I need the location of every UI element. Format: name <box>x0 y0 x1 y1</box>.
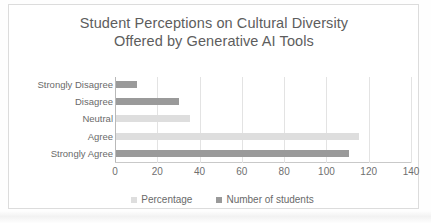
chart-frame: Student Perceptions on Cultural Diversit… <box>8 4 419 209</box>
bar-row <box>115 94 411 111</box>
x-axis-labels: 020406080100120140 <box>115 166 411 180</box>
legend-swatch-icon <box>216 197 222 203</box>
bar-row <box>115 129 411 146</box>
x-axis-tick-40: 40 <box>194 166 205 177</box>
legend-item-number-of-students[interactable]: Number of students <box>216 194 313 205</box>
gridline-140 <box>411 77 412 163</box>
x-axis-tick-120: 120 <box>360 166 377 177</box>
x-axis-tick-100: 100 <box>318 166 335 177</box>
bar-disagree <box>116 98 179 105</box>
legend-label: Number of students <box>226 194 313 205</box>
x-axis-tick-0: 0 <box>112 166 118 177</box>
bar-row <box>115 111 411 128</box>
chart-legend: PercentageNumber of students <box>17 194 428 205</box>
chart-page: Student Perceptions on Cultural Diversit… <box>0 0 431 223</box>
x-axis-tick-80: 80 <box>279 166 290 177</box>
y-axis-labels: Strongly DisagreeDisagreeNeutralAgreeStr… <box>21 77 113 163</box>
bar-agree <box>116 133 359 140</box>
y-axis-label-strongly-disagree: Strongly Disagree <box>21 79 113 90</box>
legend-swatch-icon <box>131 197 137 203</box>
chart-title: Student Perceptions on Cultural Diversit… <box>49 14 379 50</box>
y-axis-label-disagree: Disagree <box>21 96 113 107</box>
bar-row <box>115 77 411 94</box>
legend-label: Percentage <box>141 194 192 205</box>
y-axis-label-agree: Agree <box>21 131 113 142</box>
y-axis-label-neutral: Neutral <box>21 113 113 124</box>
bar-neutral <box>116 115 190 122</box>
scan-artifact <box>0 211 431 223</box>
bar-strongly-disagree <box>116 81 137 88</box>
y-axis-label-strongly-agree: Strongly Agree <box>21 148 113 159</box>
plot-area <box>115 77 411 163</box>
chart-title-line-1: Student Perceptions on Cultural Diversit… <box>80 15 348 31</box>
bar-strongly-agree <box>116 150 349 157</box>
x-axis-tick-60: 60 <box>236 166 247 177</box>
x-axis-tick-20: 20 <box>152 166 163 177</box>
chart-title-line-2: Offered by Generative AI Tools <box>49 32 379 50</box>
bar-row <box>115 146 411 163</box>
legend-item-percentage[interactable]: Percentage <box>131 194 192 205</box>
x-axis-tick-140: 140 <box>403 166 420 177</box>
